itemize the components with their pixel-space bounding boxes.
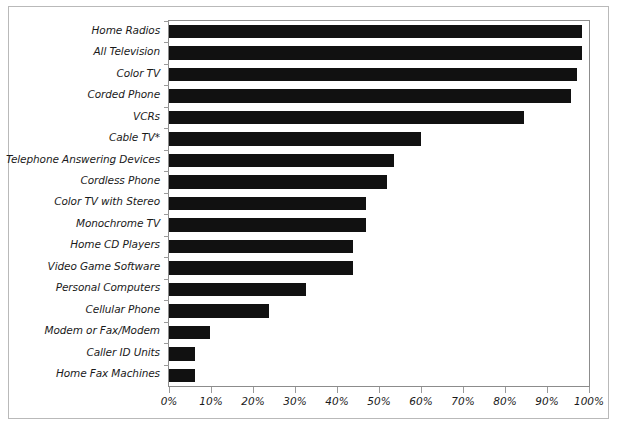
y-axis-tick: [164, 107, 169, 108]
x-axis-tick: [379, 387, 380, 393]
bar-row: Cellular Phone: [169, 300, 589, 321]
category-label: Caller ID Units: [86, 346, 160, 358]
category-label: Video Game Software: [48, 260, 160, 272]
category-label: Cellular Phone: [86, 303, 160, 315]
x-axis-tick: [547, 387, 548, 393]
y-axis-tick: [164, 128, 169, 129]
bar-row: Personal Computers: [169, 279, 589, 300]
bar-row: Telephone Answering Devices: [169, 150, 589, 171]
x-axis-tick-label: 60%: [409, 395, 432, 407]
chart-figure: Home RadiosAll TelevisionColor TVCorded …: [8, 6, 609, 419]
category-label: Cordless Phone: [80, 174, 160, 186]
bar-row: Color TV: [169, 64, 589, 85]
category-label: Color TV: [116, 67, 160, 79]
bar: [169, 347, 195, 361]
bar: [169, 283, 306, 297]
bar: [169, 197, 366, 211]
bar: [169, 304, 269, 318]
x-axis-tick: [589, 387, 590, 393]
y-axis-tick: [164, 322, 169, 323]
bar-row: Color TV with Stereo: [169, 193, 589, 214]
category-label: Telephone Answering Devices: [6, 153, 160, 165]
x-axis-tick: [505, 387, 506, 393]
category-label: Color TV with Stereo: [54, 195, 160, 207]
bar: [169, 369, 195, 383]
x-axis-tick-label: 70%: [451, 395, 474, 407]
bar: [169, 25, 582, 39]
x-axis-tick-label: 20%: [241, 395, 264, 407]
bar: [169, 111, 524, 125]
y-axis-tick: [164, 257, 169, 258]
category-label: Monochrome TV: [76, 217, 160, 229]
y-axis-tick: [164, 214, 169, 215]
x-axis-tick: [295, 387, 296, 393]
bar-row: Corded Phone: [169, 85, 589, 106]
y-axis-tick: [164, 171, 169, 172]
x-axis-tick: [169, 387, 170, 393]
y-axis-tick: [164, 300, 169, 301]
bar: [169, 89, 571, 103]
bar-row: Home CD Players: [169, 236, 589, 257]
category-label: Cable TV*: [109, 131, 160, 143]
category-label: All Television: [93, 45, 160, 57]
bar: [169, 218, 366, 232]
category-label: Home CD Players: [70, 238, 160, 250]
category-label: VCRs: [133, 110, 160, 122]
bar-row: Modem or Fax/Modem: [169, 322, 589, 343]
x-axis-tick: [253, 387, 254, 393]
bar: [169, 154, 394, 168]
y-axis-tick: [164, 64, 169, 65]
category-label: Personal Computers: [56, 281, 160, 293]
x-axis-tick-label: 100%: [574, 395, 604, 407]
bar: [169, 240, 353, 254]
y-axis-tick: [164, 193, 169, 194]
category-label: Home Fax Machines: [56, 367, 160, 379]
bar-row: Home Radios: [169, 21, 589, 42]
bar-row: Cordless Phone: [169, 171, 589, 192]
bar: [169, 132, 421, 146]
bar: [169, 46, 582, 60]
y-axis-tick: [164, 365, 169, 366]
y-axis-tick: [164, 343, 169, 344]
bar-row: Monochrome TV: [169, 214, 589, 235]
bar-row: Cable TV*: [169, 128, 589, 149]
y-axis-tick: [164, 236, 169, 237]
y-axis-tick: [164, 279, 169, 280]
x-axis-tick: [211, 387, 212, 393]
bar: [169, 326, 210, 340]
x-axis-tick-label: 90%: [535, 395, 558, 407]
x-axis-tick: [463, 387, 464, 393]
x-axis-tick-label: 50%: [367, 395, 390, 407]
x-axis-tick: [421, 387, 422, 393]
bar-row: VCRs: [169, 107, 589, 128]
x-axis-tick-label: 40%: [325, 395, 348, 407]
bar: [169, 261, 353, 275]
bar-row: Caller ID Units: [169, 343, 589, 364]
y-axis-tick: [164, 85, 169, 86]
x-axis-tick-label: 0%: [161, 395, 178, 407]
y-axis-tick: [164, 42, 169, 43]
plot-area: Home RadiosAll TelevisionColor TVCorded …: [168, 20, 590, 387]
bar-row: Home Fax Machines: [169, 365, 589, 386]
x-axis-tick-label: 30%: [283, 395, 306, 407]
x-axis: 0%10%20%30%40%50%60%70%80%90%100%: [168, 387, 590, 421]
category-label: Home Radios: [92, 24, 160, 36]
bar: [169, 68, 577, 82]
y-axis-tick: [164, 150, 169, 151]
bar-rows: Home RadiosAll TelevisionColor TVCorded …: [169, 21, 589, 386]
bar-row: All Television: [169, 42, 589, 63]
bar-row: Video Game Software: [169, 257, 589, 278]
x-axis-tick: [337, 387, 338, 393]
category-label: Corded Phone: [87, 88, 160, 100]
x-axis-tick-label: 10%: [199, 395, 222, 407]
category-label: Modem or Fax/Modem: [44, 324, 160, 336]
y-axis-tick: [164, 21, 169, 22]
x-axis-tick-label: 80%: [493, 395, 516, 407]
bar: [169, 175, 387, 189]
